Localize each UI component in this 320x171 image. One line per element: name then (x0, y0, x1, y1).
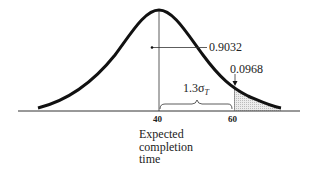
area-left-label: 0.9032 (209, 41, 242, 53)
span-brace (160, 100, 232, 109)
caption-line-3: time (139, 153, 160, 165)
bell-curve (38, 10, 281, 108)
tick-label-40: 40 (153, 115, 162, 124)
sigma-subscript: T (204, 88, 208, 97)
area-tail-label: 0.0968 (230, 63, 263, 75)
caption-line-1: Expected (139, 128, 184, 140)
arrow-head-dot (151, 46, 154, 49)
tick-label-60: 60 (228, 115, 237, 124)
sigma-main: 1.3σ (183, 81, 204, 95)
sigma-span-label: 1.3σT (183, 82, 209, 99)
